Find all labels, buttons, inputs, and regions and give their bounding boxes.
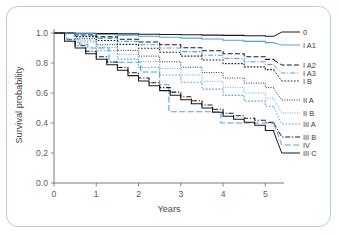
- x-tick-label: 5: [263, 189, 268, 199]
- legend-label-4: I B: [303, 77, 312, 86]
- curve-iv: [54, 33, 274, 124]
- survival-chart: 0.00.20.40.60.81.0 012345 0I A1I A2I A3I…: [0, 0, 339, 235]
- legend-line-6: [274, 99, 300, 113]
- curve-iii-b: [54, 33, 274, 123]
- x-tick-label: 0: [52, 189, 57, 199]
- y-tick-label: 0.2: [36, 148, 48, 158]
- y-tick-label: 0.4: [36, 118, 48, 128]
- curve-series-group: [54, 33, 274, 132]
- legend-label-0: 0: [303, 28, 307, 37]
- y-axis-title: Survival probability: [14, 66, 24, 144]
- legend-line-4: [274, 70, 300, 81]
- legend-line-7: [274, 107, 300, 124]
- x-axis-title: Years: [157, 204, 181, 214]
- legend: 0I A1I A2I A3I BII AII BIII AIII BIVIII …: [274, 28, 317, 158]
- legend-label-10: III C: [303, 149, 317, 158]
- y-tick-label: 0.6: [36, 88, 48, 98]
- legend-label-1: I A1: [303, 41, 316, 50]
- curve-ii-a: [54, 33, 274, 89]
- legend-line-5: [274, 89, 300, 101]
- legend-line-1: [274, 43, 300, 45]
- x-tick-labels: 012345: [52, 189, 268, 199]
- legend-label-6: II B: [303, 109, 314, 118]
- curve-ii-b: [54, 33, 274, 99]
- x-tick-label: 4: [221, 189, 226, 199]
- legend-line-3: [274, 65, 300, 73]
- x-tick-label: 3: [178, 189, 183, 199]
- y-tick-label: 1.0: [36, 28, 48, 38]
- curve-i-a3: [54, 33, 274, 65]
- y-tick-label: 0.0: [36, 178, 48, 188]
- y-tick-labels: 0.00.20.40.60.81.0: [36, 28, 48, 188]
- y-tick-label: 0.8: [36, 58, 48, 68]
- legend-label-7: III A: [303, 120, 316, 129]
- legend-line-0: [274, 32, 300, 36]
- legend-label-5: II A: [303, 96, 314, 105]
- x-tick-label: 1: [94, 189, 99, 199]
- x-tick-label: 2: [136, 189, 141, 199]
- chart-svg: 0.00.20.40.60.81.0 012345 0I A1I A2I A3I…: [0, 0, 339, 235]
- legend-line-2: [274, 60, 300, 65]
